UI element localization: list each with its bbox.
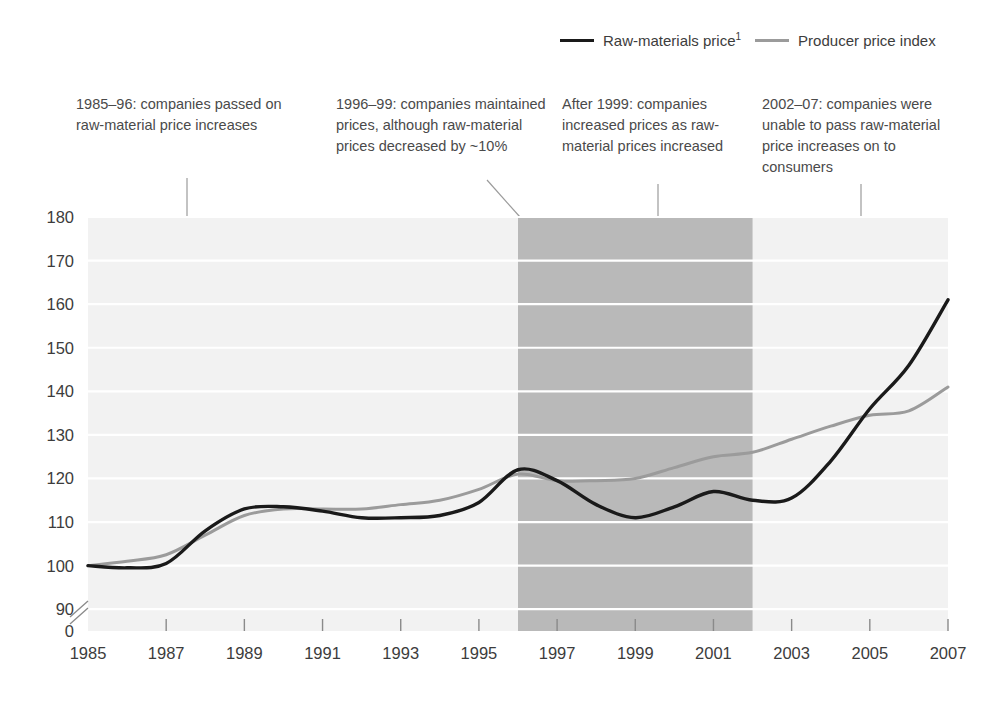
x-tick-label-1997: 1997 <box>539 644 576 662</box>
x-tick-label-1987: 1987 <box>148 644 185 662</box>
y-tick-label-zero: 0 <box>65 622 74 640</box>
x-tick-label-1989: 1989 <box>226 644 263 662</box>
plot-background <box>88 217 948 631</box>
x-tick-label-1991: 1991 <box>304 644 341 662</box>
x-tick-label-2003: 2003 <box>773 644 810 662</box>
y-tick-label-180: 180 <box>46 208 74 226</box>
y-tick-label-110: 110 <box>48 513 74 531</box>
y-tick-label-160: 160 <box>46 295 74 313</box>
x-axis-tick-labels: 1985198719891991199319951997199920012003… <box>70 644 967 662</box>
y-axis-tick-labels: 901001101201301401501601701800 <box>46 208 74 640</box>
highlight-band-1996-2002 <box>518 217 753 631</box>
x-tick-label-2005: 2005 <box>851 644 888 662</box>
y-tick-label-130: 130 <box>46 426 74 444</box>
x-tick-label-1995: 1995 <box>461 644 498 662</box>
x-tick-label-1985: 1985 <box>70 644 107 662</box>
x-tick-label-2001: 2001 <box>695 644 732 662</box>
y-tick-label-140: 140 <box>46 382 74 400</box>
y-tick-label-150: 150 <box>46 339 74 357</box>
y-tick-label-170: 170 <box>46 252 74 270</box>
y-tick-label-120: 120 <box>46 469 74 487</box>
x-tick-label-2007: 2007 <box>930 644 967 662</box>
x-tick-label-1999: 1999 <box>617 644 654 662</box>
line-chart: 901001101201301401501601701800 198519871… <box>0 0 1000 709</box>
x-tick-label-1993: 1993 <box>382 644 419 662</box>
y-tick-label-100: 100 <box>46 557 74 575</box>
